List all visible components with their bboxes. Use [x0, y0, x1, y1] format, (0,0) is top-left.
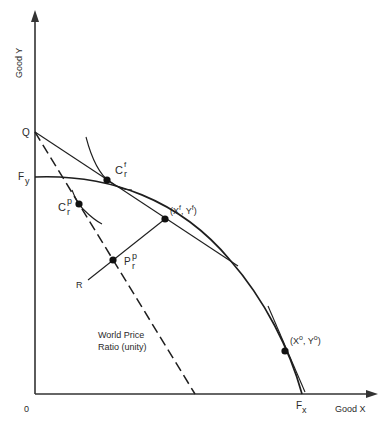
label-Cf-sub: r	[124, 169, 127, 179]
world-price-label-line1: World Price	[98, 330, 144, 340]
point-Pp	[109, 256, 116, 263]
label-Fx-sub: x	[302, 405, 307, 415]
point-Cp	[75, 200, 82, 207]
label-Yo-y: , Y	[303, 336, 314, 346]
label-Cf-main: C	[115, 164, 123, 176]
label-Pp-main: P	[124, 256, 131, 267]
origin-label: 0	[24, 404, 29, 414]
label-Pp-sup: p	[132, 251, 137, 261]
label-Cf: C f r	[115, 160, 127, 179]
label-Cp-sup: p	[67, 196, 72, 206]
label-Xf-close: )	[194, 206, 197, 216]
label-R: R	[76, 280, 83, 290]
x-axis-label: Good X	[335, 404, 366, 414]
y-axis-label: Good Y	[14, 48, 24, 78]
label-Xo-x: (X	[290, 336, 299, 346]
x-axis-arrow-icon	[366, 390, 378, 398]
indifference-curve-protection	[72, 190, 102, 224]
label-Xf-Yf: (Xf, Yf)	[170, 204, 197, 216]
label-Pp: P p r	[124, 251, 137, 271]
y-axis-arrow-icon	[31, 10, 39, 22]
point-Xf-Yf	[161, 215, 168, 222]
label-Xo-Yo: (Xo, Yo)	[290, 334, 321, 346]
label-Fy-main: F	[18, 171, 24, 182]
label-Q: Q	[22, 127, 30, 138]
line-R-to-Xf	[88, 219, 165, 280]
label-Cp-sub: r	[67, 207, 70, 217]
trade-diagram: Good Y Good X 0 Q F y F x C f r C p r	[0, 0, 392, 429]
label-Pp-sub: r	[132, 261, 135, 271]
label-Xo-close: )	[318, 336, 321, 346]
label-Yf-y: , Y	[181, 206, 192, 216]
label-Fy: F y	[18, 171, 30, 186]
label-Cp: C p r	[58, 196, 72, 217]
free-trade-price-line	[35, 132, 238, 266]
point-Cf	[103, 176, 110, 183]
label-Fx: F x	[296, 400, 307, 415]
label-Fy-sub: y	[25, 176, 30, 186]
label-Cp-main: C	[58, 201, 66, 213]
label-Xf-x: (X	[170, 206, 179, 216]
point-Xo-Yo	[281, 347, 288, 354]
label-Cf-sup: f	[124, 160, 127, 169]
world-price-label-line2: Ratio (unity)	[98, 342, 147, 352]
